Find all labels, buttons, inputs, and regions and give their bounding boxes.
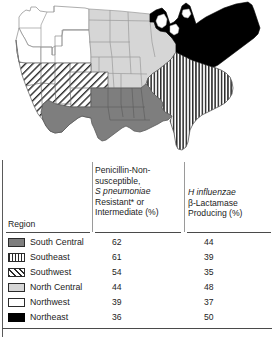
influenzae-value-north-central: 48 <box>204 282 214 292</box>
col-separator-2 <box>184 162 185 232</box>
legend-swatch-south-central <box>8 238 25 247</box>
col1-header: Region <box>8 219 35 230</box>
influenzae-value-northwest: 37 <box>204 297 214 307</box>
col2-header-line-4: Resistant* or <box>95 197 183 208</box>
penicillin-value-southwest: 54 <box>112 267 122 277</box>
influenzae-value-south-central: 44 <box>204 237 214 247</box>
influenzae-value-southwest: 35 <box>204 267 214 277</box>
penicillin-value-northeast: 36 <box>112 312 122 322</box>
region-label-north-central: North Central <box>30 282 82 292</box>
table-left-border <box>2 160 3 337</box>
us-map-svg <box>0 0 275 163</box>
region-label-southeast: Southeast <box>30 252 70 262</box>
region-label-southwest: Southwest <box>30 267 71 277</box>
col2-header-line-2: susceptible, <box>95 176 183 187</box>
header-rule-col1 <box>6 232 90 233</box>
region-label-south-central: South Central <box>30 237 84 247</box>
legend-swatch-northeast <box>8 313 25 322</box>
header-rule-col3 <box>187 232 271 233</box>
legend-swatch-north-central <box>8 283 25 292</box>
col2-header-line-1: Penicillin-Non- <box>95 165 183 176</box>
penicillin-value-southeast: 61 <box>112 252 122 262</box>
penicillin-value-south-central: 62 <box>112 237 122 247</box>
col-separator-1 <box>92 162 93 232</box>
col3-header: H influenzae β-Lactamase Producing (%) <box>188 187 272 219</box>
col2-header-line-3: S pneumoniae <box>95 186 183 197</box>
penicillin-value-northwest: 39 <box>112 297 122 307</box>
legend-swatch-southwest <box>8 268 25 277</box>
legend-swatch-northwest <box>8 298 25 307</box>
table-bottom-rule <box>2 328 272 329</box>
influenzae-value-northeast: 50 <box>204 312 214 322</box>
legend-swatch-southeast <box>8 253 25 262</box>
data-table: Penicillin-Non- susceptible, S pneumonia… <box>0 160 275 337</box>
figure-map-and-table: Penicillin-Non- susceptible, S pneumonia… <box>0 0 275 337</box>
col2-header-line-5: Intermediate (%) <box>95 207 183 218</box>
col3-header-line-1: H influenzae <box>188 187 272 198</box>
col2-header: Penicillin-Non- susceptible, S pneumonia… <box>95 165 183 218</box>
us-region-map <box>0 0 275 163</box>
region-label-northeast: Northeast <box>30 312 68 322</box>
influenzae-value-southeast: 39 <box>204 252 214 262</box>
region-label-northwest: Northwest <box>30 297 70 307</box>
header-rule-col2 <box>95 232 181 233</box>
penicillin-value-north-central: 44 <box>112 282 122 292</box>
map-region-northwest <box>16 6 91 63</box>
col3-header-line-2: β-Lactamase <box>188 198 272 209</box>
col3-header-line-3: Producing (%) <box>188 208 272 219</box>
